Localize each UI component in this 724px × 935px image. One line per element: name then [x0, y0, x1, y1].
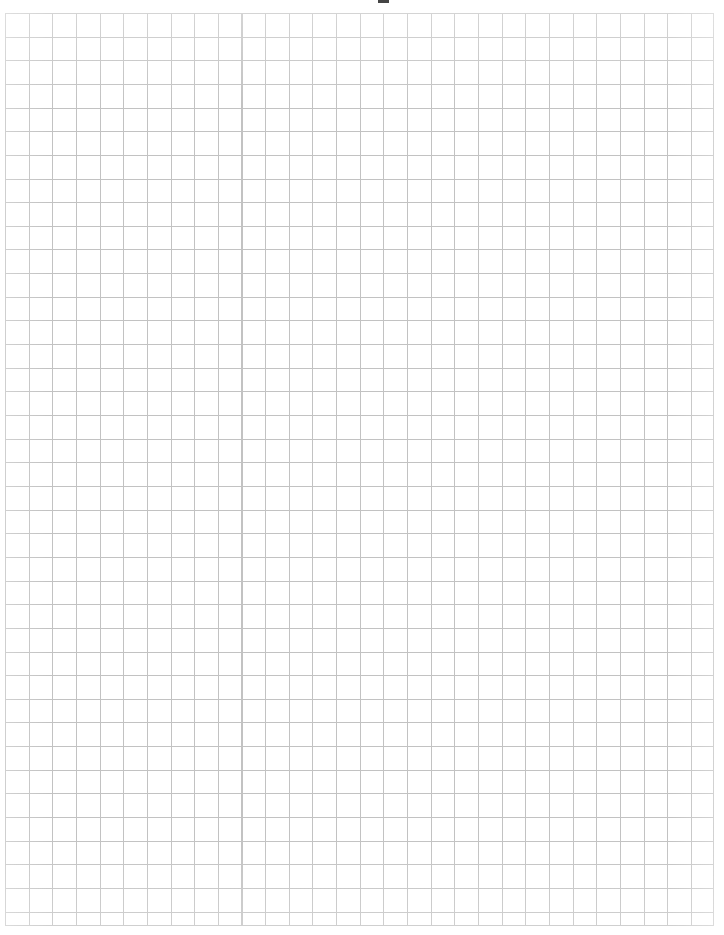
scan-artifact-mark — [378, 0, 389, 3]
page-margin-bottom — [0, 926, 724, 935]
quad-ruled-grid — [5, 13, 714, 926]
page-margin-right — [714, 13, 724, 926]
page-margin-top — [0, 0, 724, 13]
graph-paper-page — [0, 0, 724, 935]
